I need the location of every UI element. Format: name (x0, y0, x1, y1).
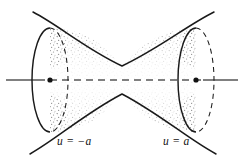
hyperboloid-figure: u = −a u = a (0, 0, 245, 161)
figure-canvas: u = −a u = a (0, 0, 245, 161)
label-u-equals-a: u = a (163, 135, 190, 147)
label-u-equals-minus-a: u = −a (57, 135, 92, 147)
left-cap-center-dot (47, 77, 52, 82)
right-cap-center-dot (193, 77, 198, 82)
